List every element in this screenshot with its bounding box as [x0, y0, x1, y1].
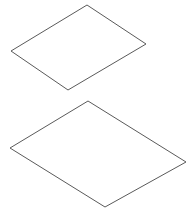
- figure-svg: [0, 0, 189, 208]
- upper-quadrilateral: [11, 5, 146, 90]
- lower-quadrilateral: [10, 101, 186, 207]
- figure-canvas: [0, 0, 189, 208]
